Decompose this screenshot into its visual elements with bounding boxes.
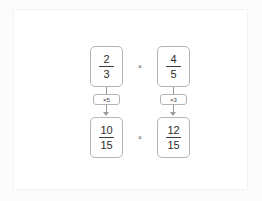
multiplier-badge-right[interactable]: ×3: [160, 94, 187, 105]
multiplication-operator-bottom: ×: [134, 134, 146, 141]
fraction-box-top-right[interactable]: 4 5: [157, 46, 190, 87]
fraction-bar: [99, 66, 114, 67]
fraction-bar: [166, 66, 181, 67]
arrow-down-icon: [170, 112, 176, 116]
fraction-box-bottom-left[interactable]: 10 15: [90, 117, 123, 158]
fraction-bar: [166, 137, 181, 138]
connector-row: ×5 ×3: [90, 87, 190, 117]
numerator: 2: [104, 53, 110, 65]
connector-stem-top: [106, 87, 107, 94]
diagram-panel: 2 3 × 4 5 ×5: [13, 9, 248, 190]
connector-stem-top: [173, 87, 174, 94]
denominator: 15: [168, 139, 180, 151]
fraction-conversion-diagram: 2 3 × 4 5 ×5: [90, 46, 190, 158]
multiplication-operator-top: ×: [134, 63, 146, 70]
diagram-canvas: 2 3 × 4 5 ×5: [0, 0, 262, 201]
denominator: 5: [171, 68, 177, 80]
fraction-bar: [99, 137, 114, 138]
arrow-down-icon: [103, 112, 109, 116]
numerator: 12: [168, 124, 180, 136]
fraction-box-bottom-right[interactable]: 12 15: [157, 117, 190, 158]
numerator: 4: [171, 53, 177, 65]
top-fraction-row: 2 3 × 4 5: [90, 46, 190, 87]
numerator: 10: [101, 124, 113, 136]
fraction-box-top-left[interactable]: 2 3: [90, 46, 123, 87]
denominator: 3: [104, 68, 110, 80]
multiplier-badge-left[interactable]: ×5: [93, 94, 120, 105]
denominator: 15: [101, 139, 113, 151]
connector-right: ×3: [157, 87, 190, 117]
connector-left: ×5: [90, 87, 123, 117]
bottom-fraction-row: 10 15 × 12 15: [90, 117, 190, 158]
